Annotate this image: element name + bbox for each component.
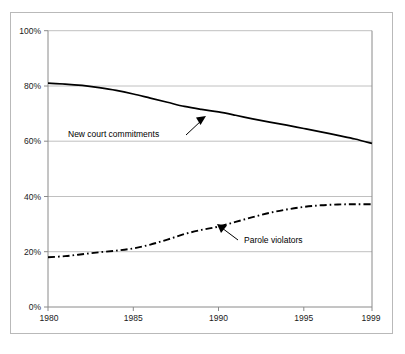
axes (48, 31, 372, 307)
y-tick-label-20: 20% (24, 247, 41, 257)
x-tick-label-1990: 1990 (209, 313, 228, 323)
y-axis-tick-labels: 100% 80% 60% 40% 20% 0% (19, 26, 41, 312)
y-tick-label-40: 40% (24, 192, 41, 202)
x-axis-tick-labels: 1980 1985 1990 1995 1999 (40, 313, 381, 323)
series-line-parole-violators (48, 204, 372, 257)
x-axis-tickmarks (48, 307, 372, 311)
annotation-label-parole-violators: Parole violators (244, 235, 303, 245)
annotation-arrowhead-parole (217, 224, 227, 233)
annotation-label-new-court-commitments: New court commitments (68, 129, 159, 139)
y-axis-tickmarks (44, 31, 48, 307)
y-tick-label-0: 0% (29, 302, 42, 312)
gridlines (48, 31, 372, 252)
annotation-parole-violators: Parole violators (217, 224, 303, 245)
annotation-leader-line-parole (222, 228, 238, 240)
x-tick-label-1995: 1995 (294, 313, 313, 323)
annotation-new-court-commitments: New court commitments (68, 116, 206, 139)
y-tick-label-80: 80% (24, 81, 41, 91)
y-tick-label-60: 60% (24, 136, 41, 146)
line-chart: 100% 80% 60% 40% 20% 0% 1980 1985 1990 1… (0, 0, 405, 354)
x-tick-label-1999: 1999 (362, 313, 381, 323)
y-tick-label-100: 100% (19, 26, 41, 36)
x-tick-label-1985: 1985 (124, 313, 143, 323)
x-tick-label-1980: 1980 (40, 313, 59, 323)
